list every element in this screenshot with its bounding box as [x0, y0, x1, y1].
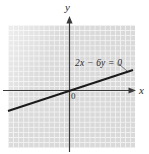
- plot-overlay: [0, 0, 149, 154]
- equation-label: 2x − 6y = 0: [75, 59, 122, 69]
- origin-label: 0: [71, 92, 76, 101]
- y-axis-label: y: [65, 2, 70, 13]
- graph-figure: y x 0 2x − 6y = 0: [0, 0, 149, 154]
- y-axis-arrowhead: [66, 16, 72, 24]
- x-axis-arrowhead: [129, 87, 137, 93]
- x-axis-label: x: [139, 85, 144, 96]
